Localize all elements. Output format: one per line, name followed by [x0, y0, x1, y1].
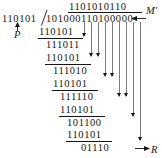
- remainder-value: 01110: [81, 142, 109, 153]
- dividend-pointer-arrow-icon: [131, 15, 147, 22]
- step-partial-remainder: 111010: [53, 65, 87, 76]
- remainder-label: R: [151, 144, 157, 155]
- dropline-arrow-icon: [82, 33, 86, 37]
- dropline-arrow-icon: [138, 137, 142, 141]
- step-subtrahend: 110101: [46, 52, 81, 63]
- dividend-value: 101000110100000: [46, 13, 133, 24]
- dropline-arrow-icon: [124, 93, 128, 97]
- step-partial-remainder: 111011: [46, 39, 80, 50]
- step-partial-remainder: 101100: [67, 117, 102, 128]
- step-subtrahend: 110101: [39, 26, 74, 37]
- dropline-arrow-icon: [110, 73, 114, 77]
- dropline: [91, 22, 92, 56]
- dropline: [98, 22, 99, 56]
- dropline: [140, 22, 141, 140]
- step-partial-remainder: 111110: [60, 91, 94, 102]
- step-subtrahend: 110101: [60, 104, 95, 115]
- dropline: [119, 22, 120, 96]
- divisor-label: P: [14, 29, 20, 40]
- dropline-arrow-icon: [131, 113, 135, 117]
- dropline-arrow-icon: [117, 93, 121, 97]
- dropline-arrow-icon: [96, 53, 100, 57]
- dropline-arrow-icon: [103, 73, 107, 77]
- dropline: [112, 22, 113, 76]
- dropline: [105, 22, 106, 76]
- dropline-arrow-icon: [89, 53, 93, 57]
- binary-long-division-figure: 1101010110 110101 101000110100000 M' P: [0, 0, 162, 158]
- dropline: [126, 22, 127, 96]
- quotient-value: 1101010110: [69, 1, 127, 12]
- dividend-label: M': [146, 5, 157, 16]
- remainder-pointer-arrow-icon: [134, 145, 150, 152]
- step-subtrahend: 110101: [53, 78, 88, 89]
- step-subtrahend: 110101: [67, 129, 102, 140]
- dropline: [133, 22, 134, 116]
